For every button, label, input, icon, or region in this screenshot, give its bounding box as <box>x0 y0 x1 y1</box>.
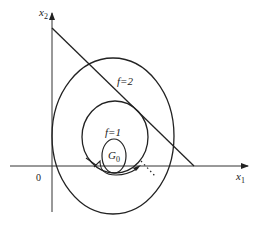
origin-label: 0 <box>36 172 41 183</box>
x2-axis-label: x2 <box>38 6 48 21</box>
g0-label: G0 <box>108 149 120 164</box>
f1-label: f=1 <box>105 126 121 138</box>
f2-label: f=2 <box>117 75 133 87</box>
dotted-extension <box>141 161 155 176</box>
x1-axis-label: x1 <box>235 170 245 185</box>
optimization-diagram: x2 x1 0 f=2 f=1 G0 <box>0 0 257 229</box>
